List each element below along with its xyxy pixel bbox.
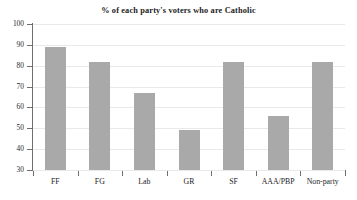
x-axis-tick: [256, 171, 257, 176]
chart-title: % of each party's voters who are Catholi…: [0, 6, 357, 15]
bar: [268, 116, 289, 170]
x-axis-tick: [78, 171, 79, 176]
x-axis-tick: [345, 171, 346, 176]
y-axis-tick-label: 30: [0, 166, 24, 173]
x-axis-tick-label: FF: [33, 178, 78, 186]
y-axis-tick: [27, 107, 32, 108]
bar: [89, 62, 110, 170]
bar: [134, 93, 155, 170]
bar: [179, 130, 200, 170]
y-axis-tick: [27, 87, 32, 88]
x-axis-tick-label: Non-party: [300, 178, 345, 186]
y-axis-tick-label: 50: [0, 124, 24, 131]
x-axis-tick: [300, 171, 301, 176]
y-axis-tick-label: 70: [0, 83, 24, 90]
gridline: [33, 170, 345, 171]
x-axis-tick: [211, 171, 212, 176]
y-axis-tick-label: 80: [0, 62, 24, 69]
bar: [312, 62, 333, 170]
bar: [45, 47, 66, 170]
y-axis-tick-label: 40: [0, 145, 24, 152]
plot-area: [33, 24, 345, 170]
y-axis-tick: [27, 170, 32, 171]
y-axis-tick: [27, 66, 32, 67]
bar: [223, 62, 244, 170]
x-axis-tick: [167, 171, 168, 176]
x-axis-tick-label: GR: [167, 178, 212, 186]
y-axis-tick-label: 90: [0, 41, 24, 48]
x-axis-tick-label: Lab: [122, 178, 167, 186]
y-axis-tick: [27, 24, 32, 25]
y-axis-tick-label: 100: [0, 20, 24, 27]
y-axis-tick: [27, 128, 32, 129]
x-axis-tick-label: FG: [78, 178, 123, 186]
x-axis-tick-label: AAA/PBP: [256, 178, 301, 186]
y-axis-tick-label: 60: [0, 103, 24, 110]
x-axis-tick: [33, 171, 34, 176]
y-axis-tick: [27, 149, 32, 150]
y-axis-tick: [27, 45, 32, 46]
x-axis-tick: [122, 171, 123, 176]
bar-chart: % of each party's voters who are Catholi…: [0, 0, 357, 200]
x-axis-tick-label: SF: [211, 178, 256, 186]
